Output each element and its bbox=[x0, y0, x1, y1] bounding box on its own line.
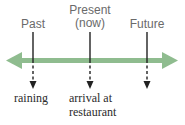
event-present-text-line1: arrival at bbox=[69, 91, 116, 105]
event-present: arrival at restaurant bbox=[69, 91, 116, 119]
label-present: Present (now) bbox=[66, 4, 114, 30]
axis-left-arrowhead-icon bbox=[6, 52, 22, 69]
label-present-subtext: (now) bbox=[66, 17, 114, 30]
label-future: Future bbox=[125, 18, 169, 31]
event-present-text-line2: restaurant bbox=[69, 105, 116, 119]
down-arrow-icon bbox=[144, 81, 151, 89]
label-past-text: Past bbox=[21, 17, 45, 31]
down-arrow-icon bbox=[87, 81, 94, 89]
label-past: Past bbox=[18, 18, 48, 31]
label-future-text: Future bbox=[130, 17, 165, 31]
event-past-text: raining bbox=[14, 91, 48, 105]
down-arrow-icon bbox=[30, 81, 37, 89]
event-past: raining bbox=[14, 91, 48, 105]
timeline-axis bbox=[6, 52, 178, 69]
axis-right-arrowhead-icon bbox=[162, 52, 178, 69]
